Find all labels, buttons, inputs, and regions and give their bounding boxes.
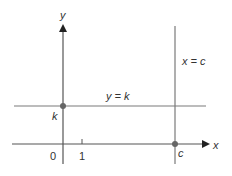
x-axis-label: x	[212, 139, 219, 151]
horizontal-line-label: y = k	[105, 90, 130, 102]
tick-label-1: 1	[79, 150, 85, 162]
coordinate-diagram: y x 0 1 y = k k x = c c	[0, 0, 232, 176]
origin-label: 0	[50, 150, 56, 162]
y-axis-label: y	[59, 9, 67, 21]
c-intercept-label: c	[178, 147, 184, 159]
k-intercept-label: k	[52, 110, 58, 122]
vertical-line-label: x = c	[181, 55, 206, 67]
point-k-intercept	[60, 103, 66, 109]
